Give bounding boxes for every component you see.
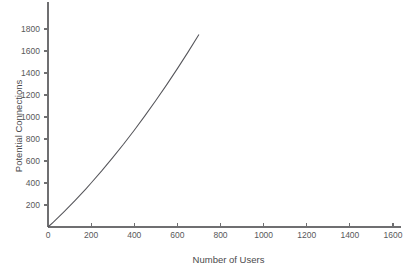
y-axis-title: Potential Connections (13, 80, 24, 173)
x-tick-label: 600 (170, 230, 184, 240)
y-tick-label: 600 (26, 156, 40, 166)
y-tick-label: 1600 (21, 46, 40, 56)
x-axis-title: Number of Users (193, 254, 265, 265)
x-tick-label: 800 (213, 230, 227, 240)
x-tick-label: 1400 (340, 230, 359, 240)
y-tick-label: 1800 (21, 24, 40, 34)
x-tick-label: 200 (84, 230, 98, 240)
data-series-line (48, 35, 199, 228)
plot-area: 0200400600800100012001400160020040060080… (13, 2, 403, 265)
x-tick-label: 1600 (384, 230, 403, 240)
y-tick-label: 200 (26, 200, 40, 210)
x-tick-label: 1000 (254, 230, 273, 240)
y-tick-label: 800 (26, 134, 40, 144)
chart-container: 0200400600800100012001400160020040060080… (0, 0, 407, 269)
y-tick-label: 400 (26, 178, 40, 188)
x-tick-label: 400 (127, 230, 141, 240)
x-tick-label: 1200 (297, 230, 316, 240)
line-chart: 0200400600800100012001400160020040060080… (0, 0, 407, 269)
y-tick-label: 1400 (21, 68, 40, 78)
x-tick-label: 0 (46, 230, 51, 240)
